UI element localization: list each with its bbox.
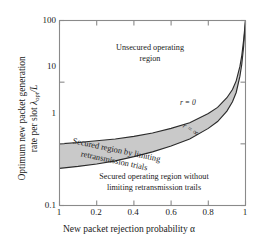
annotation-unsecured-region: Unsecured operating region [95,43,205,64]
x-tick-label-1: 1 [233,207,257,217]
x-tick-label-0.4: 0.4 [121,207,145,217]
annotation-unsecured-line1: Unsecured operating [116,43,184,52]
y-axis-title: Optimum new packet generation rate per s… [17,33,42,203]
curve-r-zero [60,21,246,144]
x-tick-label-0.2: 0.2 [84,207,108,217]
x-tick-label-0.6: 0.6 [159,207,183,217]
x-tick-label-0: 1 [47,207,71,217]
x-axis-title: New packet rejection probability α [0,224,258,234]
chart-figure: 100 10 1 0.1 1 0.2 0.4 0.6 0.8 1 Optimum… [0,0,258,243]
lambda-symbol: λ [28,101,38,105]
curve-label-r-zero: r = 0 [180,98,196,107]
y-tick-label-100: 100 [30,15,56,25]
x-tick-label-0.8: 0.8 [196,207,220,217]
y-axis-title-line1: Optimum new packet generation [17,56,27,180]
y-axis-title-suffix: /L [28,85,38,93]
annotation-secured-region: Secured operating region without limitin… [68,172,240,193]
annotation-unsecured-line2: region [140,54,161,63]
lambda-subscript: opt [33,93,40,101]
annotation-secured-line2: limiting retransmission trails [107,183,201,192]
annotation-secured-line1: Secured operating region without [99,172,208,181]
y-axis-title-line2-prefix: rate per slot [28,105,38,152]
